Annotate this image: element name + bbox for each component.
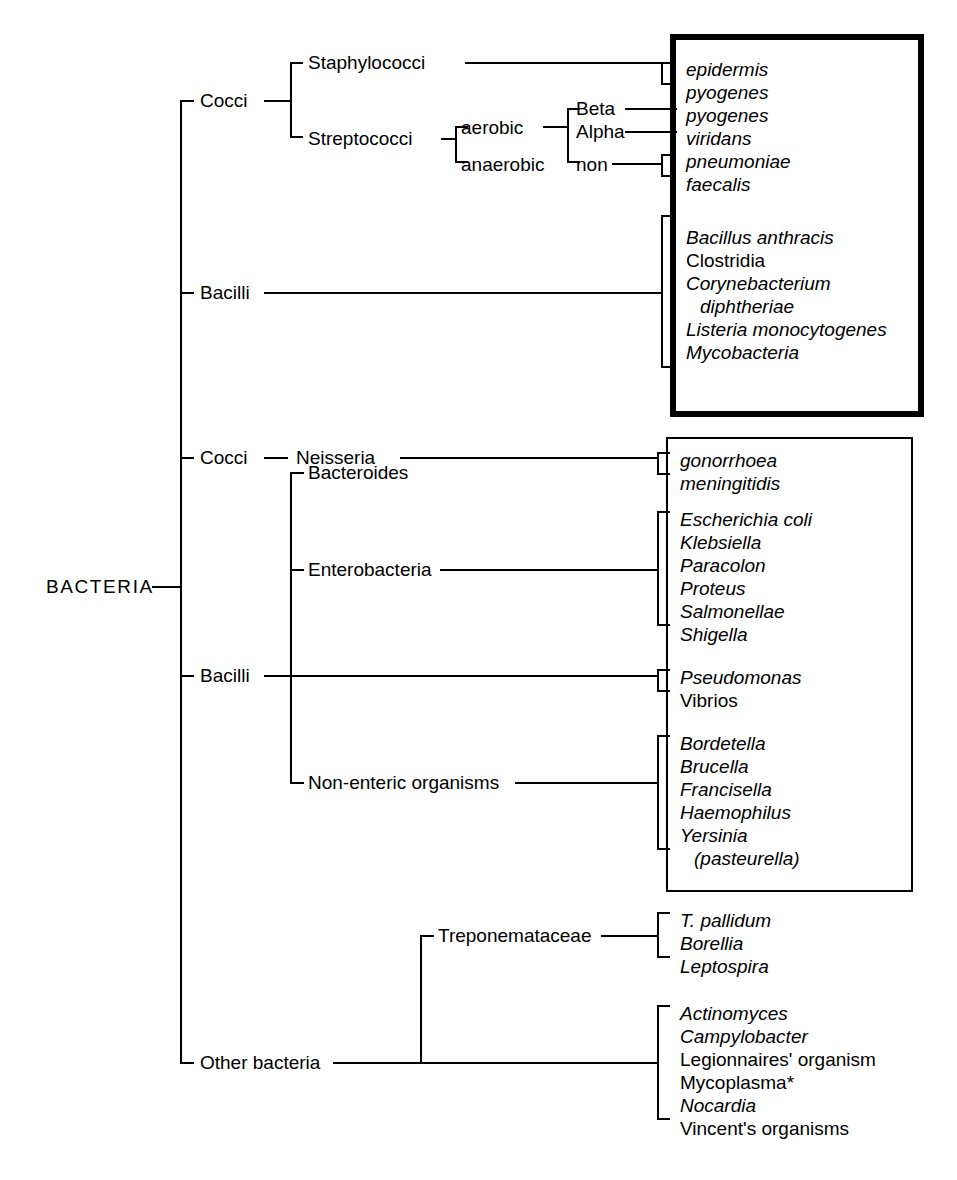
bacilli-neg-arm-entero [290,569,304,571]
organism-bacillus-anthracis: Bacillus anthracis [686,228,834,247]
non-enteric-line [515,782,657,784]
bacilli-neg-spine [290,472,292,782]
organism-meningitidis: meningitidis [680,474,780,493]
aerobic-connector [543,126,567,128]
organism-legionnaires: Legionnaires' organism [680,1050,876,1069]
bacilli-pos-line [264,292,661,294]
organism-pyogenes-strep: pyogenes [686,106,768,125]
bacilli-neg-arm-bacteroides [290,472,304,474]
main-spine-arm-bottom [180,1062,194,1064]
neisseria-line [400,457,657,459]
organism-faecalis: faecalis [686,175,750,194]
node-non-enteric-organisms: Non-enteric organisms [308,773,499,792]
organism-proteus: Proteus [680,579,745,598]
gram-negative-box [666,437,913,892]
organism-diphtheriae: diphtheriae [700,297,794,316]
bacilli-neg-arm-nonenteric [290,782,304,784]
node-staphylococci: Staphylococci [308,53,425,72]
organism-vincents: Vincent's organisms [680,1119,849,1138]
bacilli-neg-connector [264,675,290,677]
node-other-bacteria: Other bacteria [200,1053,320,1072]
organism-campylobacter: Campylobacter [680,1027,808,1046]
node-bacilli-gram-positive: Bacilli [200,283,250,302]
organism-mycobacteria: Mycobacteria [686,343,799,362]
organism-paracolon: Paracolon [680,556,766,575]
organism-nocardia: Nocardia [680,1096,756,1115]
organism-leptospira: Leptospira [680,957,769,976]
root-label: BACTERIA [46,577,154,596]
organism-epidermis: epidermis [686,60,768,79]
node-treponemataceae: Treponemataceae [438,926,592,945]
organism-klebsiella: Klebsiella [680,533,761,552]
main-spine-arm-cocci-neg [180,457,194,459]
organism-t-pallidum: T. pallidum [680,911,771,930]
node-cocci-gram-negative: Cocci [200,448,248,467]
organism-yersinia: Yersinia [680,826,748,845]
organism-listeria-monocytogenes: Listeria monocytogenes [686,320,887,339]
node-beta: Beta [576,99,615,118]
cocci-pos-connector [264,100,290,102]
main-spine [180,100,182,1062]
organism-pneumoniae: pneumoniae [686,152,791,171]
organism-clostridia: Clostridia [686,251,765,270]
node-bacteroides: Bacteroides [308,463,408,482]
organism-vibrios: Vibrios [680,691,738,710]
organism-escherichia-coli: Escherichia coli [680,510,812,529]
non-line [612,163,661,165]
enterobacteria-line [440,569,657,571]
organism-bordetella: Bordetella [680,734,766,753]
organism-pseudomonas: Pseudomonas [680,668,801,687]
node-non: non [576,155,608,174]
other-bacteria-line [333,1062,657,1064]
organism-corynebacterium: Corynebacterium [686,274,831,293]
treponemataceae-line [601,935,657,937]
node-aerobic: aerobic [461,118,523,137]
organism-francisella: Francisella [680,780,772,799]
main-spine-arm-bacilli-neg [180,675,194,677]
organism-viridans: viridans [686,129,751,148]
bacteria-classification-diagram: BACTERIA Cocci Bacilli Cocci Bacilli Oth… [0,0,957,1180]
node-streptococci: Streptococci [308,129,413,148]
other-bacteria-riser [420,935,422,1062]
organism-pyogenes-staph: pyogenes [686,83,768,102]
organism-gonorrhoea: gonorrhoea [680,451,777,470]
node-anaerobic: anaerobic [461,155,544,174]
main-spine-arm-bacilli-pos [180,292,194,294]
organism-shigella: Shigella [680,625,748,644]
cocci-neg-connector [264,457,288,459]
organism-brucella: Brucella [680,757,749,776]
root-connector-line [152,586,180,588]
organism-borellia: Borellia [680,934,743,953]
organism-salmonellae: Salmonellae [680,602,785,621]
streptococci-connector [441,138,455,140]
node-bacilli-gram-negative: Bacilli [200,666,250,685]
treponemataceae-arm [420,935,434,937]
bacilli-neg-direct-line [290,675,657,677]
organism-pasteurella: (pasteurella) [694,849,800,868]
organism-actinomyces: Actinomyces [680,1004,788,1023]
organism-mycoplasma: Mycoplasma* [680,1073,794,1092]
main-spine-arm-top [180,100,194,102]
organism-haemophilus: Haemophilus [680,803,791,822]
node-cocci-gram-positive: Cocci [200,91,248,110]
staphylococci-line [465,62,661,64]
node-alpha: Alpha [576,122,625,141]
node-enterobacteria: Enterobacteria [308,560,432,579]
